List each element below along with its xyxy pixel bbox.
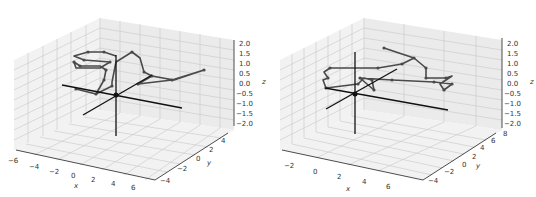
plot-right: −2 0 2 4 6 x −4 −2 0 2 4 6 8 y 2.0 1.5 1…	[268, 0, 536, 197]
svg-text:0.5: 0.5	[239, 70, 250, 78]
svg-text:2: 2	[337, 173, 341, 181]
svg-text:−2: −2	[177, 165, 187, 173]
svg-text:6: 6	[491, 137, 496, 145]
svg-text:−1.0: −1.0	[236, 100, 253, 108]
svg-text:−2: −2	[284, 162, 294, 170]
svg-text:4: 4	[111, 180, 116, 188]
figure: −6 −4 −2 0 2 4 6 x −4 −2 0 2 4 y 2.0 1.5…	[0, 0, 536, 197]
z-tick-labels: 2.0 1.5 1.0 0.5 0.0 −0.5 −1.0 −1.5 −2.0	[504, 40, 521, 128]
svg-text:1.0: 1.0	[507, 60, 518, 68]
svg-text:0: 0	[313, 168, 317, 176]
svg-text:2: 2	[91, 176, 95, 184]
y-axis-label: y	[475, 162, 481, 170]
svg-text:1.5: 1.5	[507, 50, 518, 58]
svg-text:−0.5: −0.5	[236, 90, 253, 98]
svg-text:0.0: 0.0	[507, 80, 518, 88]
svg-text:−6: −6	[8, 157, 19, 165]
x-axis-label: x	[73, 182, 79, 190]
svg-text:−1.5: −1.5	[504, 110, 521, 118]
svg-text:−0.5: −0.5	[504, 90, 521, 98]
svg-text:0.5: 0.5	[507, 70, 518, 78]
svg-text:−4: −4	[29, 163, 40, 171]
svg-text:6: 6	[386, 183, 391, 191]
svg-text:2: 2	[209, 146, 213, 154]
z-axis-label: z	[529, 78, 534, 86]
svg-text:−1.5: −1.5	[236, 110, 253, 118]
plot-left: −6 −4 −2 0 2 4 6 x −4 −2 0 2 4 y 2.0 1.5…	[0, 0, 268, 197]
z-axis-label: z	[261, 78, 266, 86]
svg-text:0: 0	[71, 172, 75, 180]
svg-text:−2.0: −2.0	[504, 120, 521, 128]
svg-text:6: 6	[131, 184, 136, 192]
svg-text:0.0: 0.0	[239, 80, 250, 88]
svg-text:−4: −4	[160, 177, 171, 185]
svg-text:0: 0	[462, 161, 466, 169]
z-tick-labels: 2.0 1.5 1.0 0.5 0.0 −0.5 −1.0 −1.5 −2.0	[236, 40, 253, 128]
svg-text:4: 4	[221, 137, 226, 145]
svg-text:2.0: 2.0	[507, 40, 518, 48]
svg-text:−2: −2	[49, 168, 59, 176]
svg-text:−2.0: −2.0	[236, 120, 253, 128]
x-axis-label: x	[345, 185, 351, 193]
svg-text:0: 0	[196, 155, 200, 163]
svg-text:8: 8	[503, 130, 507, 138]
svg-text:2: 2	[472, 153, 476, 161]
svg-text:−2: −2	[444, 168, 454, 176]
svg-text:−4: −4	[428, 177, 439, 185]
svg-text:−1.0: −1.0	[504, 100, 521, 108]
y-axis-label: y	[206, 159, 212, 167]
svg-text:1.5: 1.5	[239, 50, 250, 58]
svg-text:1.0: 1.0	[239, 60, 250, 68]
svg-text:2.0: 2.0	[239, 40, 250, 48]
svg-text:4: 4	[362, 178, 367, 186]
svg-text:4: 4	[480, 144, 485, 152]
